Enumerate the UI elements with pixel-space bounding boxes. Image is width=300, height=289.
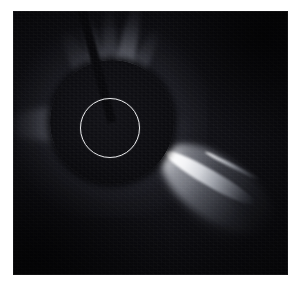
- frame-vignette: [13, 11, 288, 275]
- coronagraph-frame: [13, 11, 288, 275]
- coronagraph-image-page: [0, 0, 300, 289]
